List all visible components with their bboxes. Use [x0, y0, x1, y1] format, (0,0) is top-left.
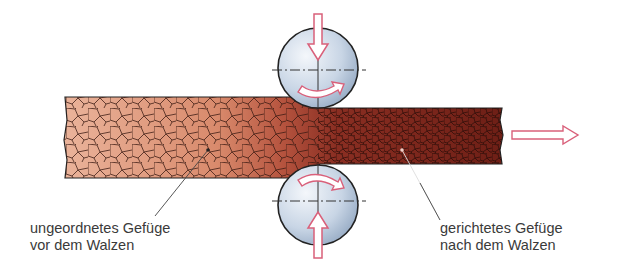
workpiece-strip — [64, 97, 503, 178]
label-before-rolling: ungeordnetes Gefüge vor dem Walzen — [30, 220, 170, 254]
label-after-rolling: gerichtetes Gefüge nach dem Walzen — [440, 220, 563, 254]
label-line: nach dem Walzen — [440, 237, 563, 254]
label-line: ungeordnetes Gefüge — [30, 220, 170, 237]
label-line: vor dem Walzen — [30, 237, 170, 254]
label-line: gerichtetes Gefüge — [440, 220, 563, 237]
feed-direction-arrow-icon — [512, 126, 578, 144]
